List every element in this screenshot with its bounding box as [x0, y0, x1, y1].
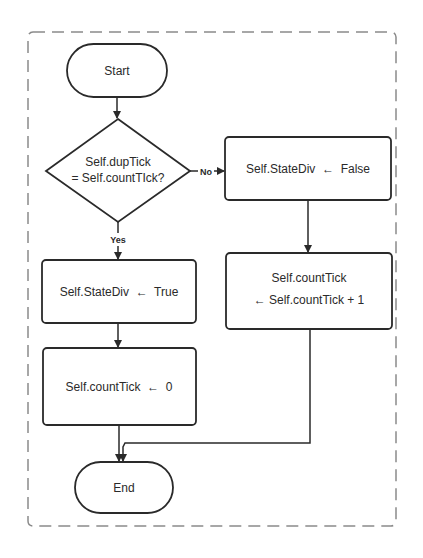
- statediv-true-label: Self.StateDiv ← True: [60, 285, 179, 299]
- process-statediv-true: Self.StateDiv ← True: [42, 260, 196, 323]
- start-label: Start: [104, 64, 130, 78]
- yes-branch-label: Yes: [110, 235, 126, 245]
- flowchart-canvas: Start Self.dupTick = Self.countTIck? No …: [0, 0, 423, 558]
- process-counttick-reset: Self.countTick ← 0: [43, 348, 196, 425]
- start-terminal: Start: [67, 44, 167, 97]
- increment-label-line2: ← Self.countTick + 1: [254, 293, 365, 307]
- decision-diamond: Self.dupTick = Self.countTIck?: [46, 119, 190, 222]
- no-branch-label: No: [200, 167, 212, 177]
- process-statediv-false: Self.StateDiv ← False: [225, 137, 391, 200]
- end-label: End: [113, 481, 134, 495]
- increment-label-line1: Self.countTick: [272, 271, 348, 285]
- statediv-false-label: Self.StateDiv ← False: [246, 162, 370, 176]
- counttick-reset-label: Self.countTick ← 0: [66, 380, 173, 394]
- end-terminal: End: [75, 462, 173, 513]
- process-counttick-increment: Self.countTick ← Self.countTick + 1: [226, 253, 392, 329]
- decision-label-line1: Self.dupTick: [85, 155, 152, 169]
- decision-label-line2: = Self.countTIck?: [71, 171, 164, 185]
